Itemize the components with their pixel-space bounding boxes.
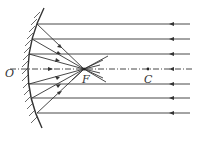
reflected-arrows: [48, 44, 62, 95]
incident-rays: [29, 24, 190, 113]
vertex-label: O: [5, 67, 14, 80]
incident-arrows: [169, 22, 174, 115]
focus-label: F: [81, 73, 90, 86]
center-point: [147, 68, 150, 71]
focus-point: [82, 67, 85, 70]
mirror-hatching: [22, 12, 40, 123]
concave-mirror: [28, 8, 44, 128]
concave-mirror-diagram: O F C: [0, 0, 199, 141]
reflected-rays: [29, 24, 108, 113]
center-label: C: [144, 73, 153, 86]
